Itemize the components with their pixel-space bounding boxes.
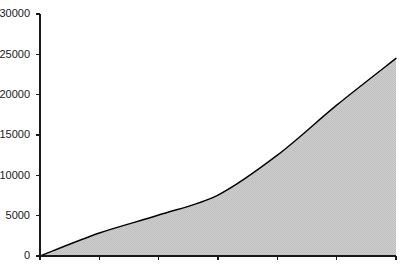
- y-axis-tick-label: 5000: [6, 209, 30, 221]
- y-axis-tick-label: 30000: [0, 7, 30, 19]
- y-axis-tick-label: 10000: [0, 169, 30, 181]
- chart-container: 050001000015000200002500030000: [0, 0, 415, 266]
- y-axis-tick-label: 15000: [0, 128, 30, 140]
- area-chart: 050001000015000200002500030000: [0, 0, 415, 266]
- y-axis-tick-label: 25000: [0, 48, 30, 60]
- y-axis-tick-label: 0: [24, 249, 30, 261]
- y-axis-tick-label: 20000: [0, 88, 30, 100]
